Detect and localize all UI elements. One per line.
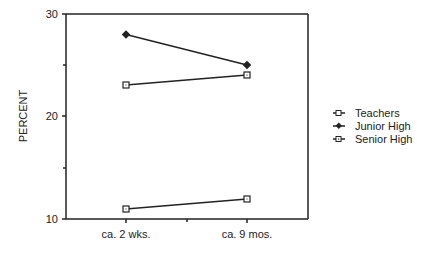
svg-text:Senior High: Senior High	[355, 133, 412, 145]
series-junior-high	[122, 30, 251, 69]
svg-text:Junior High: Junior High	[355, 120, 411, 132]
line-chart: 30 20 10 PERCENT ca. 2 wks. ca. 9 mos. T…	[0, 0, 429, 262]
x-tick-2wks: ca. 2 wks.	[102, 228, 151, 240]
series-teachers	[123, 196, 250, 212]
legend-item-senior-high: Senior High	[333, 133, 412, 145]
x-tick-9mos: ca. 9 mos.	[222, 228, 273, 240]
diamond-marker	[243, 61, 251, 69]
y-tick-30: 30	[46, 8, 58, 20]
y-tick-20: 20	[46, 110, 58, 122]
svg-text:Teachers: Teachers	[355, 107, 400, 119]
legend: Teachers Junior High Senior High	[333, 107, 412, 145]
legend-item-junior-high: Junior High	[333, 120, 411, 132]
plot-frame	[62, 14, 308, 223]
series-senior-high	[123, 72, 250, 88]
legend-item-teachers: Teachers	[333, 107, 400, 119]
y-tick-10: 10	[46, 213, 58, 225]
y-axis-title: PERCENT	[17, 89, 29, 142]
diamond-marker	[122, 30, 130, 38]
